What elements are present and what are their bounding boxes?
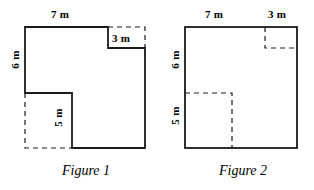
figure-1-outline [25,27,145,148]
figure-2-outline [185,27,297,148]
figure-2-label-top-left: 7 m [205,9,223,20]
figure-2-bottom-left-dashed [185,93,232,148]
figure-2-top-right-dashed [265,27,297,48]
figure-2-label-left-upper: 6 m [170,43,181,77]
figure-1-caption: Figure 1 [25,163,147,179]
figure-2-label-top-right: 3 m [268,9,286,20]
figure-panel: 7 m 6 m 3 m 5 m 7 m 3 m 6 m 5 m Figure 1… [0,0,314,190]
figure-1-notch-bottom-left-dashed [25,93,72,148]
figure-1-label-inner-bottom: 5 m [53,101,64,135]
figure-1-label-top: 7 m [51,9,69,20]
figure-1-drawing [0,0,314,190]
figure-1-label-notch-top-right: 3 m [112,33,130,44]
figure-2-label-left-lower: 5 m [170,99,181,133]
figure-1-label-left: 6 m [10,43,21,77]
figure-2-caption: Figure 2 [185,163,301,179]
